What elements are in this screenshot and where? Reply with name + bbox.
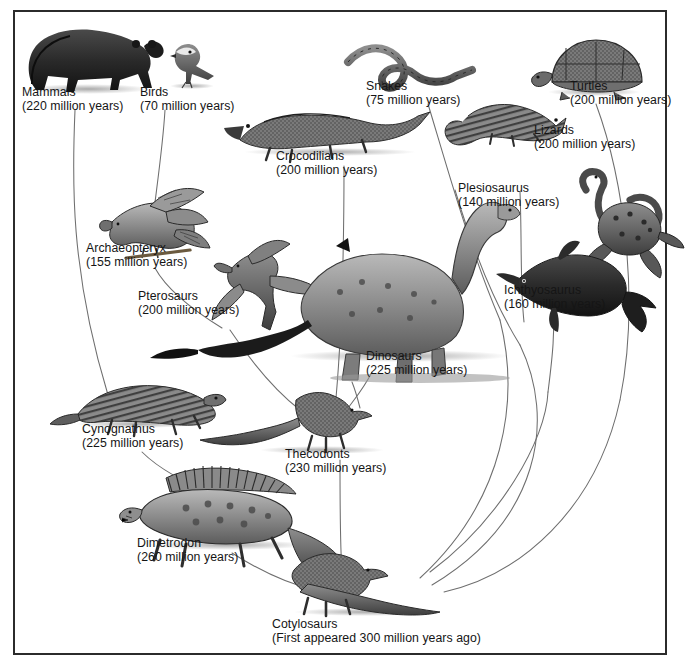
label-crocodilians: Crocodilians (200 million years) [276, 150, 377, 177]
diagram-page: Mammals (220 million years) Birds (70 mi… [0, 0, 689, 671]
label-archaeopteryx: Archaeopteryx (155 million years) [86, 242, 187, 269]
taxon-name: Cotylosaurs [272, 618, 481, 632]
taxon-age: (220 million years) [22, 100, 123, 114]
label-pterosaurs: Pterosaurs (200 million years) [138, 290, 239, 317]
taxon-age: (230 million years) [285, 462, 386, 476]
taxon-age: (155 million years) [86, 256, 187, 270]
taxon-age: (200 million years) [534, 138, 635, 152]
taxon-age: (225 million years) [366, 364, 467, 378]
taxon-name: Thecodonts [285, 448, 386, 462]
taxon-age: (225 million years) [82, 437, 183, 451]
label-snakes: Snakes (75 million years) [366, 80, 461, 107]
taxon-name: Turtles [570, 80, 671, 94]
label-cotylosaurs: Cotylosaurs (First appeared 300 million … [272, 618, 481, 645]
taxon-name: Snakes [366, 80, 461, 94]
label-dimetrodon: Dimetrodon (260 million years) [137, 537, 238, 564]
taxon-name: Dimetrodon [137, 537, 238, 551]
taxon-name: Mammals [22, 86, 123, 100]
taxon-age: (70 million years) [140, 100, 235, 114]
taxon-age: (200 million years) [570, 94, 671, 108]
taxon-name: Cynognathus [82, 423, 183, 437]
taxon-name: Crocodilians [276, 150, 377, 164]
taxon-age: (140 million years) [458, 196, 559, 210]
taxon-name: Plesiosaurus [458, 182, 559, 196]
label-birds: Birds (70 million years) [140, 86, 235, 113]
taxon-age: (160 million years) [504, 298, 605, 312]
label-mammals: Mammals (220 million years) [22, 86, 123, 113]
label-lizards: Lizards (200 million years) [534, 124, 635, 151]
taxon-name: Dinosaurs [366, 350, 467, 364]
label-dinosaurs: Dinosaurs (225 million years) [366, 350, 467, 377]
taxon-name: Archaeopteryx [86, 242, 187, 256]
taxon-age: (200 million years) [138, 304, 239, 318]
taxon-name: Ichthyosaurus [504, 284, 605, 298]
taxon-age: (First appeared 300 million years ago) [272, 632, 481, 646]
taxon-age: (200 million years) [276, 164, 377, 178]
taxon-name: Pterosaurs [138, 290, 239, 304]
label-ichthyosaurus: Ichthyosaurus (160 million years) [504, 284, 605, 311]
taxon-name: Lizards [534, 124, 635, 138]
taxon-age: (260 million years) [137, 551, 238, 565]
label-cynognathus: Cynognathus (225 million years) [82, 423, 183, 450]
taxon-name: Birds [140, 86, 235, 100]
taxon-age: (75 million years) [366, 94, 461, 108]
label-plesiosaurus: Plesiosaurus (140 million years) [458, 182, 559, 209]
label-thecodonts: Thecodonts (230 million years) [285, 448, 386, 475]
label-turtles: Turtles (200 million years) [570, 80, 671, 107]
